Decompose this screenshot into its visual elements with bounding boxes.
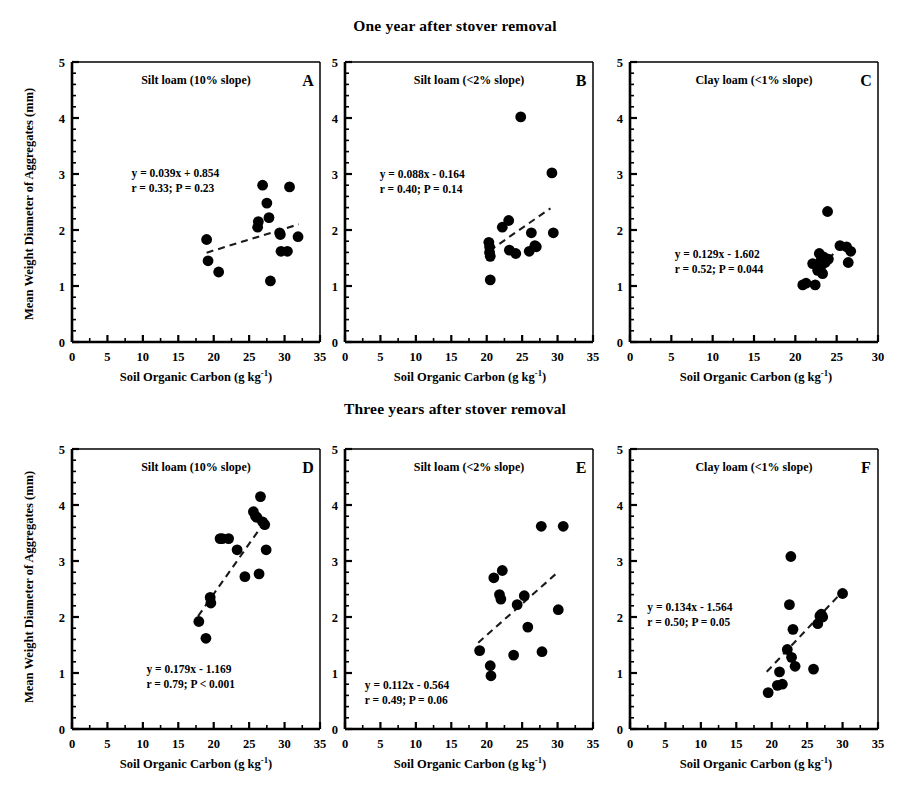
panel-letter: B [576, 72, 587, 89]
data-point [259, 519, 270, 530]
x-axis-label-paren: ) [268, 370, 272, 384]
y-tick-label: 5 [617, 443, 623, 457]
data-point [474, 645, 485, 656]
x-axis-label-exponent: -1 [535, 368, 542, 378]
x-axis-label-exponent: -1 [821, 368, 828, 378]
data-point [193, 616, 204, 627]
x-tick-label: 0 [627, 737, 633, 751]
y-tick-label: 3 [59, 555, 65, 569]
data-point [497, 565, 508, 576]
x-tick-label: 25 [243, 737, 256, 751]
x-axis-label-text: Soil Organic Carbon (g kg [120, 370, 261, 384]
x-tick-label: 10 [137, 737, 150, 751]
regression-equation: y = 0.179x - 1.169 [146, 663, 231, 676]
data-point [284, 181, 295, 192]
x-tick-label: 15 [172, 350, 185, 364]
x-tick-label: 35 [872, 737, 885, 751]
y-tick-label: 2 [617, 611, 623, 625]
x-tick-label: 20 [207, 350, 220, 364]
x-tick-label: 5 [104, 737, 110, 751]
x-tick-label: 30 [872, 350, 885, 364]
regression-equation: y = 0.134x - 1.564 [647, 601, 732, 614]
x-tick-label: 25 [516, 737, 529, 751]
y-tick-label: 3 [332, 555, 338, 569]
y-tick-label: 0 [332, 723, 338, 737]
x-tick-label: 0 [627, 350, 633, 364]
scatter-panel-e: 01234505101520253035Silt loam (<2% slope… [313, 435, 605, 755]
data-point [553, 604, 564, 615]
x-tick-label: 30 [551, 350, 564, 364]
x-axis-label-text: Soil Organic Carbon (g kg [394, 370, 535, 384]
data-point [843, 257, 854, 268]
data-point [223, 533, 234, 544]
data-point [485, 660, 496, 671]
x-axis-label-f: Soil Organic Carbon (g kg-1) [630, 755, 882, 772]
data-points [201, 180, 303, 287]
regression-stats: r = 0.79; P < 0.001 [146, 678, 235, 690]
x-axis-label-paren: ) [268, 757, 272, 771]
axis-ticks: 01234505101520253035 [59, 443, 327, 751]
x-tick-label: 15 [730, 737, 743, 751]
x-tick-label: 15 [445, 350, 458, 364]
y-tick-label: 5 [59, 56, 65, 70]
y-tick-label: 1 [617, 667, 623, 681]
axis-ticks: 012345051015202530 [617, 56, 885, 364]
x-tick-label: 10 [706, 350, 719, 364]
data-points [193, 491, 271, 643]
plot-frame [72, 62, 320, 342]
x-tick-label: 5 [668, 350, 674, 364]
x-tick-label: 5 [662, 737, 668, 751]
data-point [205, 598, 216, 609]
data-point [257, 180, 268, 191]
x-tick-label: 0 [69, 737, 75, 751]
y-tick-label: 5 [332, 443, 338, 457]
x-axis-label-text: Soil Organic Carbon (g kg [394, 757, 535, 771]
x-tick-label: 25 [516, 350, 529, 364]
panel-letter: C [860, 72, 872, 89]
x-tick-label: 15 [445, 737, 458, 751]
y-tick-label: 5 [59, 443, 65, 457]
figure-title-top: One year after stover removal [0, 17, 910, 35]
data-point [261, 198, 272, 209]
data-point [526, 227, 537, 238]
figure-title-bottom: Three years after stover removal [0, 400, 910, 418]
regression-equation: y = 0.129x - 1.602 [675, 248, 760, 261]
regression-stats: r = 0.52; P = 0.044 [675, 263, 764, 275]
data-point [485, 274, 496, 285]
regression-stats: r = 0.50; P = 0.05 [647, 616, 730, 628]
data-point [282, 246, 293, 257]
data-point [785, 551, 796, 562]
regression-stats: r = 0.40; P = 0.14 [380, 183, 463, 195]
y-tick-label: 3 [617, 168, 623, 182]
y-tick-label: 0 [617, 723, 623, 737]
x-axis-label-paren: ) [828, 370, 832, 384]
data-point [201, 633, 212, 644]
y-tick-label: 0 [332, 336, 338, 350]
regression-equation: y = 0.112x - 0.564 [365, 679, 450, 692]
x-tick-label: 30 [551, 737, 564, 751]
y-tick-label: 3 [59, 168, 65, 182]
x-tick-label: 15 [748, 350, 761, 364]
data-point [488, 572, 499, 583]
data-point [788, 624, 799, 635]
scatter-panel-c: 012345051015202530Clay loam (<1% slope)C… [598, 48, 890, 368]
data-point [519, 590, 530, 601]
data-point [485, 251, 496, 262]
x-tick-label: 20 [765, 737, 778, 751]
soil-type-label: Silt loam (10% slope) [141, 73, 251, 87]
data-point [503, 215, 514, 226]
data-point [790, 661, 801, 672]
data-point [239, 571, 250, 582]
data-point [763, 687, 774, 698]
scatter-panel-d: 01234505101520253035Silt loam (10% slope… [40, 435, 332, 755]
data-points [797, 206, 856, 290]
data-point [261, 544, 272, 555]
data-point [801, 278, 812, 289]
axis-ticks: 01234505101520253035 [59, 56, 327, 364]
data-point [508, 650, 519, 661]
plot-frame [345, 62, 593, 342]
x-tick-label: 30 [278, 350, 291, 364]
data-point [784, 599, 795, 610]
x-axis-label-d: Soil Organic Carbon (g kg-1) [72, 755, 320, 772]
data-point [512, 599, 523, 610]
